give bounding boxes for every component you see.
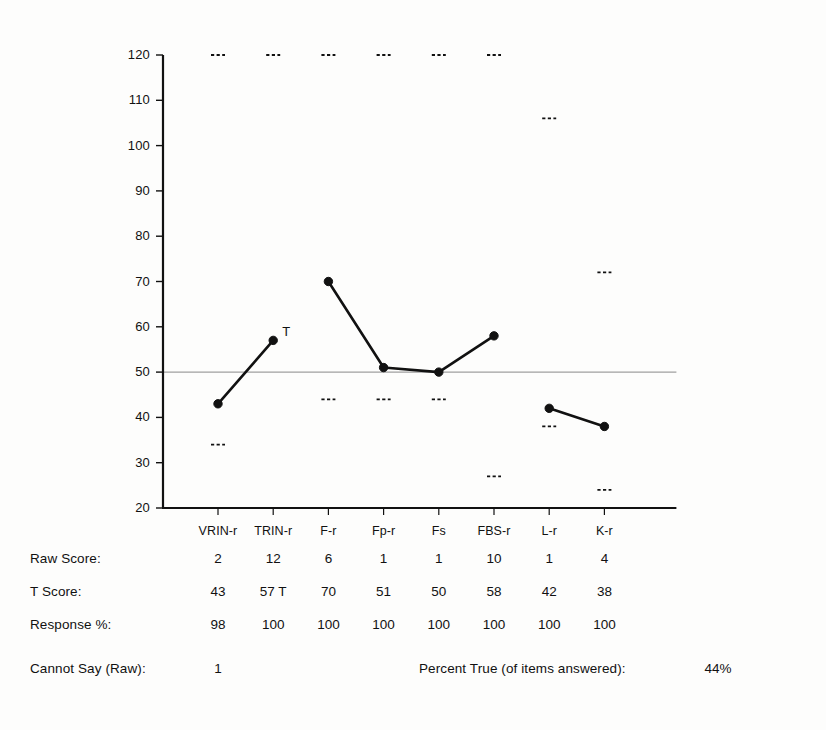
y-tick-label-120: 120 [116, 47, 150, 62]
data-point-fp-r [379, 363, 387, 371]
row-label-response: Response %: [30, 617, 111, 632]
y-tick-label-80: 80 [116, 228, 150, 243]
data-point-fbs-r [490, 332, 498, 340]
y-tick-label-60: 60 [116, 319, 150, 334]
profile-line-segment-2 [328, 282, 494, 373]
data-point-k-r [600, 422, 608, 430]
y-tick-label-70: 70 [116, 274, 150, 289]
x-axis-label-k-r: K-r [569, 524, 639, 538]
cell-k-r: 100 [569, 617, 639, 632]
data-series-group [214, 277, 609, 430]
table-row: Raw Score:2126111014 [0, 545, 826, 575]
y-tick-label-20: 20 [116, 500, 150, 515]
data-point-trin-r [269, 336, 277, 344]
cannot-say-label: Cannot Say (Raw): [30, 661, 146, 676]
data-point-f-r [324, 277, 332, 285]
cell-k-r: 4 [569, 551, 639, 566]
row-label-rawscore: Raw Score: [30, 551, 101, 566]
y-tick-label-110: 110 [116, 92, 150, 107]
data-point-l-r [545, 404, 553, 412]
cell-k-r: 38 [569, 584, 639, 599]
scores-table: Raw Score:2126111014T Score:4357 T705150… [0, 545, 826, 730]
y-tick-label-90: 90 [116, 183, 150, 198]
y-tick-label-50: 50 [116, 364, 150, 379]
validity-scales-chart: 1201101009080706050403020 VRIN-rTRIN-rF-… [0, 0, 826, 545]
footer-row: Cannot Say (Raw): 1 Percent True (of ite… [0, 655, 826, 685]
annotation-trin-r-direction: T [282, 324, 290, 339]
axis-group [156, 55, 676, 515]
cannot-say-value: 1 [183, 661, 253, 676]
table-row: Response %:98100100100100100100100 [0, 611, 826, 641]
table-row: T Score:4357 T705150584238 [0, 578, 826, 608]
profile-line-segment-3 [549, 408, 604, 426]
y-tick-label-100: 100 [116, 138, 150, 153]
y-tick-label-40: 40 [116, 409, 150, 424]
y-tick-label-30: 30 [116, 455, 150, 470]
percent-true-value: 44% [683, 661, 753, 676]
percent-true-label: Percent True (of items answered): [419, 661, 626, 676]
confidence-marker-group [211, 55, 611, 490]
report-page: 1201101009080706050403020 VRIN-rTRIN-rF-… [0, 0, 826, 730]
data-point-fs [435, 368, 443, 376]
row-label-tscore: T Score: [30, 584, 82, 599]
data-point-vrin-r [214, 400, 222, 408]
